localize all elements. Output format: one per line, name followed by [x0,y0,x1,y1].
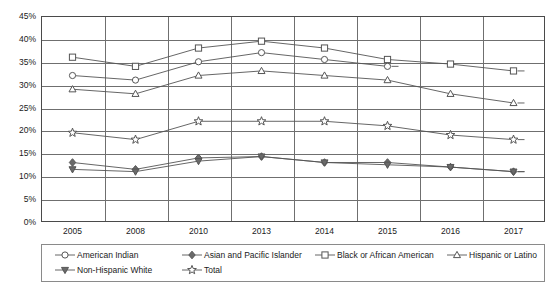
data-point-star-open [131,135,140,143]
series-total [68,117,524,144]
legend-item-black-or-african-american[interactable]: Black or African American [314,249,434,261]
data-point-star-open [509,135,518,143]
chart-legend: American IndianAsian and Pacific Islande… [41,244,545,282]
x-axis-tick-label: 2010 [189,226,208,236]
legend-label: Asian and Pacific Islander [203,250,302,260]
legend-item-non-hispanic-white[interactable]: Non-Hispanic White [54,264,152,276]
data-point-diamond-filled [69,159,75,167]
data-point-star-open [188,265,197,273]
series-line [73,71,514,103]
data-point-star-open [194,117,203,125]
series-american-indian [69,50,398,84]
y-axis-tick-label: 15% [2,148,36,158]
data-point-star-open [383,121,392,129]
data-point-circle-open [384,63,390,69]
y-axis-tick-label: 0% [2,217,36,227]
data-point-star-open [446,130,455,138]
x-axis-tick-label: 2014 [315,226,334,236]
data-point-star-open [68,128,77,136]
x-axis-tick-label: 2015 [378,226,397,236]
y-axis-tick-label: 25% [2,103,36,113]
line-chart: 45%40%35%30%25%20%15%10%5%0% 20052008201… [0,0,545,285]
data-point-star-open [320,117,329,125]
legend-item-american-indian[interactable]: American Indian [54,249,138,261]
data-point-circle-open [62,252,68,258]
data-point-triangle-down-filled [62,267,69,273]
data-point-circle-open [258,50,264,56]
data-point-square-open [132,63,138,69]
legend-marker-star-open [181,264,203,276]
legend-marker-square-open [314,249,336,261]
data-point-triangle-open [454,251,461,257]
data-point-star-open [257,117,266,125]
y-axis-tick-label: 35% [2,57,36,67]
legend-item-hispanic-or-latino[interactable]: Hispanic or Latino [446,249,537,261]
series-line [73,53,388,80]
data-point-square-open [258,38,264,44]
series-layer [41,16,545,222]
series-line [73,121,514,139]
y-axis-tick-label: 20% [2,125,36,135]
series-non-hispanic-white [69,154,525,175]
y-axis-tick-label: 40% [2,34,36,44]
y-axis-tick-label: 10% [2,171,36,181]
data-point-triangle-open [69,86,76,92]
legend-marker-circle-open [54,249,76,261]
data-point-circle-open [132,77,138,83]
data-point-circle-open [321,56,327,62]
x-axis: 20052008201020132014201520162017 [41,224,545,240]
legend-marker-diamond-filled [181,249,203,261]
legend-item-total[interactable]: Total [181,264,222,276]
legend-label: Non-Hispanic White [76,265,152,275]
x-axis-tick-label: 2017 [504,226,523,236]
legend-label: Black or African American [336,250,434,260]
data-point-diamond-filled [189,251,195,259]
legend-item-asian-and-pacific-islander[interactable]: Asian and Pacific Islander [181,249,302,261]
x-axis-tick-label: 2008 [126,226,145,236]
legend-label: Hispanic or Latino [468,250,537,260]
legend-label: Total [203,265,222,275]
data-point-triangle-open [258,67,265,73]
data-point-square-open [195,45,201,51]
legend-row: Non-Hispanic WhiteTotal [42,264,545,279]
x-axis-tick-label: 2016 [441,226,460,236]
data-point-square-open [510,68,516,74]
y-axis-tick-label: 5% [2,194,36,204]
data-point-square-open [321,45,327,51]
legend-row: American IndianAsian and Pacific Islande… [42,249,545,264]
x-axis-tick-label: 2013 [252,226,271,236]
data-point-square-open [447,61,453,67]
data-point-triangle-down-filled [132,169,139,175]
legend-label: American Indian [76,250,138,260]
data-point-square-open [384,56,390,62]
data-point-square-open [322,252,328,258]
data-point-circle-open [69,72,75,78]
legend-marker-triangle-down-filled [54,264,76,276]
y-axis-tick-label: 30% [2,80,36,90]
series-hispanic-or-latino [69,67,525,105]
data-point-circle-open [195,59,201,65]
y-axis-tick-label: 45% [2,11,36,21]
data-point-square-open [69,54,75,60]
legend-marker-triangle-open [446,249,468,261]
x-axis-tick-label: 2005 [63,226,82,236]
